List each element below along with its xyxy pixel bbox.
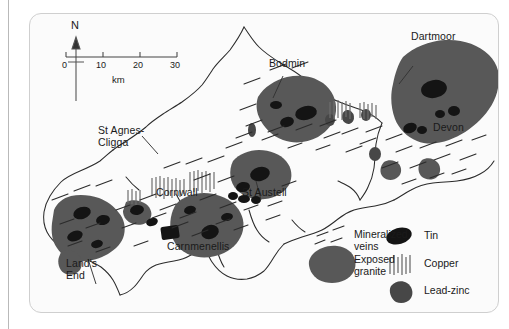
map-label-devon: Devon bbox=[433, 122, 464, 134]
figure-root: N 0 10 20 30 km Bodmin bbox=[0, 0, 509, 329]
map-label-lands-end: Land's End bbox=[66, 258, 97, 281]
granite-kit-hill bbox=[380, 160, 401, 180]
scale-tick-10: 10 bbox=[96, 60, 106, 70]
map-label-st-austell: St Austell bbox=[242, 187, 287, 199]
legend-label-tin: Tin bbox=[424, 230, 438, 242]
scale-tick-20: 20 bbox=[133, 60, 143, 70]
granite-bodmin bbox=[257, 76, 337, 143]
legend-label-mineralized-veins: Mineralized veins bbox=[354, 229, 408, 252]
map-label-cornwall: Cornwall bbox=[156, 187, 198, 199]
scale-unit-label: km bbox=[112, 74, 125, 85]
north-label: N bbox=[71, 20, 79, 32]
map-label-st-agnes-cligga: St Agnes- Cligga bbox=[98, 125, 144, 148]
map-label-bodmin: Bodmin bbox=[269, 58, 305, 70]
scale-tick-30: 30 bbox=[170, 60, 180, 70]
map-label-carnmenellis: Carnmenellis bbox=[167, 241, 229, 253]
legend-label-lead-zinc: Lead-zinc bbox=[424, 285, 470, 297]
map-panel: N 0 10 20 30 km Bodmin bbox=[29, 13, 499, 313]
legend-label-copper: Copper bbox=[424, 258, 458, 270]
legend-label-exposed-granite: Exposed granite bbox=[354, 254, 395, 277]
page-left-rule bbox=[8, 0, 9, 329]
scale-tick-0: 0 bbox=[62, 60, 67, 70]
map-label-dartmoor: Dartmoor bbox=[411, 31, 456, 43]
granite-hemerdon bbox=[418, 158, 440, 179]
